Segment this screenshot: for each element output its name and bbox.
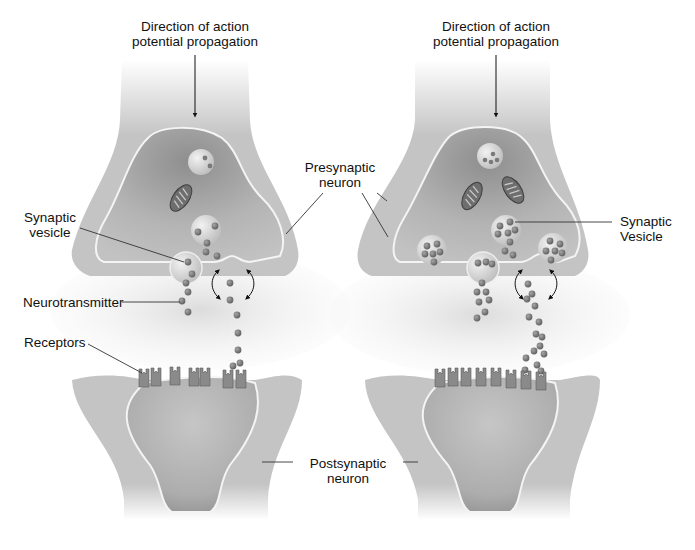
label-direction-left: Direction of action potential propagatio… [128,19,262,49]
label-line: Direction of action [128,19,262,34]
left-panel [50,55,350,520]
label-presynaptic-neuron: Presynaptic neuron [295,160,385,190]
label-direction-right: Direction of action potential propagatio… [429,19,563,49]
vesicle-fusing [467,252,499,284]
label-line: neuron [296,471,400,486]
label-synaptic-vesicle-right: Synaptic Vesicle [620,214,672,244]
label-line: Direction of action [429,19,563,34]
label-line: vesicle [18,225,82,240]
label-synaptic-vesicle-left: Synaptic vesicle [18,210,82,240]
label-line: Neurotransmitter [23,295,124,310]
label-line: potential propagation [429,34,563,49]
label-receptors: Receptors [24,335,86,350]
label-line: Receptors [24,335,86,350]
label-line: Vesicle [620,229,672,244]
vesicle-fusing [170,252,202,284]
label-line: Synaptic [18,210,82,225]
label-line: Presynaptic [295,160,385,175]
label-postsynaptic-neuron: Postsynaptic neuron [296,456,400,486]
label-line: Synaptic [620,214,672,229]
vesicle [477,143,503,169]
right-panel [330,55,630,520]
label-line: potential propagation [128,34,262,49]
label-line: Postsynaptic [296,456,400,471]
vesicle [491,215,521,245]
label-line: neuron [295,175,385,190]
leader-line-presynaptic-left [286,193,323,234]
vesicle [188,149,214,175]
receptors [139,367,246,388]
label-neurotransmitter: Neurotransmitter [23,295,124,310]
